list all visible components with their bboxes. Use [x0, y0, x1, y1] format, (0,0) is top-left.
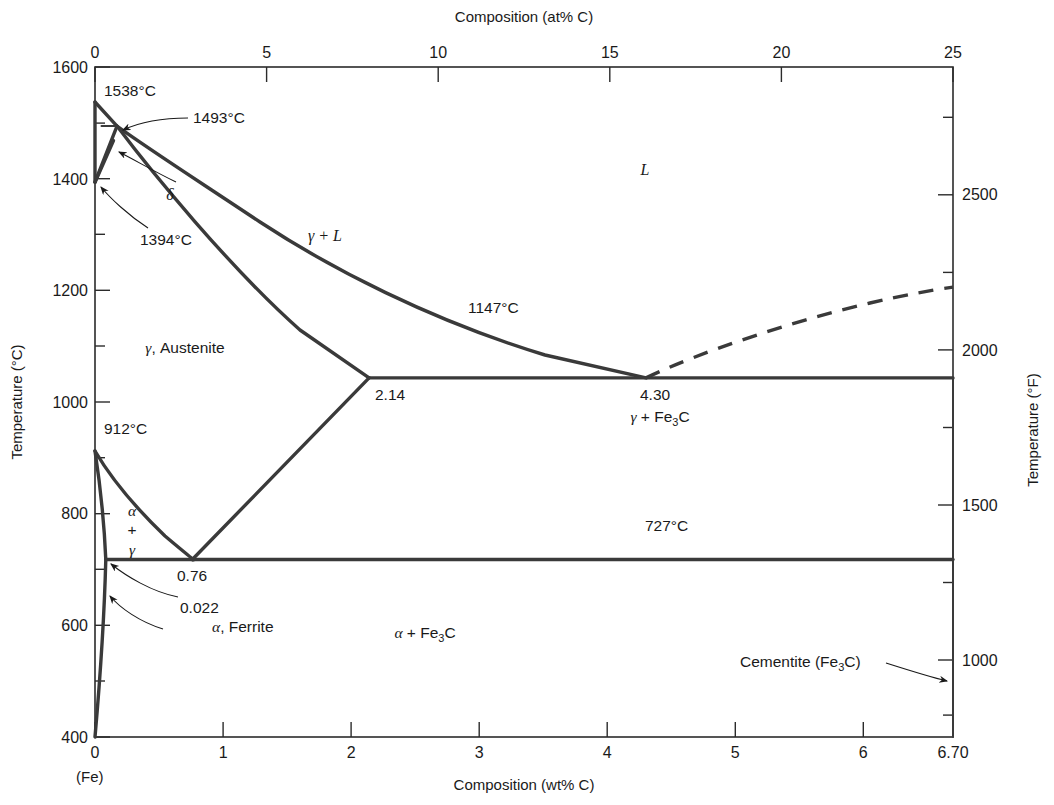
- bottom-tick-5: 5: [731, 744, 740, 761]
- cementite-head: Cementite (Fe: [740, 653, 838, 670]
- leader-delta: [119, 152, 176, 182]
- phase-label-alpha-plus-gamma: α + γ: [127, 502, 136, 558]
- origin-fe-label: (Fe): [76, 768, 104, 785]
- top-tick-10: 10: [429, 44, 447, 61]
- gamma-fe3c-tail: C: [678, 408, 689, 425]
- label-composition-2-14: 2.14: [375, 386, 406, 403]
- delta-gamma-solvus: [95, 141, 114, 183]
- plot-frame: [95, 67, 953, 737]
- top-tick-15: 15: [601, 44, 619, 61]
- phase-label-gamma-plus-cementite: γ + Fe3C: [630, 408, 689, 428]
- a3-austenite-ferrite-boundary: [95, 451, 193, 560]
- svg-text:γ: γ: [129, 541, 136, 558]
- label-composition-0-76: 0.76: [177, 567, 207, 584]
- alpha-gamma-plus: +: [127, 521, 136, 538]
- label-composition-4-30: 4.30: [640, 386, 671, 403]
- phase-label-liquid: L: [640, 161, 650, 178]
- left-axis-tick-labels: 1600 1400 1200 1000 800 600 400: [52, 59, 88, 746]
- phase-label-gamma-plus-liquid: γ + L: [308, 227, 342, 245]
- svg-text:α: α: [128, 502, 137, 519]
- label-1394c: 1394°C: [140, 231, 192, 248]
- alpha-solvus-boundary: [95, 451, 106, 737]
- leader-1394: [101, 187, 148, 228]
- bottom-tick-2: 2: [347, 744, 356, 761]
- bottom-axis-ticks: [95, 722, 953, 737]
- alpha-fe3c-tail: C: [444, 624, 455, 641]
- right-tick-2500: 2500: [962, 186, 998, 203]
- label-composition-0-022: 0.022: [180, 599, 219, 616]
- right-tick-1500: 1500: [962, 497, 998, 514]
- top-tick-5: 5: [262, 44, 271, 61]
- top-axis-tick-labels: 0 5 10 15 20 25: [91, 44, 962, 61]
- leader-cementite: [886, 663, 947, 681]
- iron-carbon-phase-diagram: 0 5 10 15 20 25 Composition (at% C) 0 1 …: [0, 0, 1054, 805]
- leader-1493: [123, 118, 188, 130]
- alpha-fe3c-head: + Fe: [403, 624, 439, 641]
- left-tick-600: 600: [61, 617, 88, 634]
- left-axis-title: Temperature (°C): [8, 344, 25, 459]
- right-tick-2000: 2000: [962, 342, 998, 359]
- left-tick-1200: 1200: [52, 282, 88, 299]
- cementite-tail: C): [844, 653, 860, 670]
- right-axis-title: Temperature (°F): [1024, 373, 1041, 487]
- right-axis-ticks: [938, 117, 953, 715]
- acm-boundary: [192, 378, 369, 560]
- leader-alpha-ferrite: [110, 596, 163, 629]
- bottom-tick-6.70: 6.70: [937, 744, 968, 761]
- label-1538c: 1538°C: [104, 82, 156, 99]
- phase-label-alpha-plus-cementite: α + Fe3C: [394, 624, 455, 644]
- top-tick-0: 0: [91, 44, 100, 61]
- label-727c: 727°C: [645, 517, 688, 534]
- bottom-tick-0: 0: [91, 744, 100, 761]
- top-tick-25: 25: [944, 44, 962, 61]
- top-axis-ticks: [95, 67, 953, 82]
- austenite-text: , Austenite: [151, 339, 224, 356]
- left-tick-1000: 1000: [52, 394, 88, 411]
- bottom-tick-4: 4: [603, 744, 612, 761]
- phase-label-delta: δ: [166, 186, 174, 203]
- left-tick-1600: 1600: [52, 59, 88, 76]
- bottom-tick-3: 3: [475, 744, 484, 761]
- top-tick-20: 20: [773, 44, 791, 61]
- alpha-glyph: α: [128, 502, 137, 519]
- bottom-axis-tick-labels: 0 1 2 3 4 5 6 6.70: [91, 744, 969, 761]
- left-tick-800: 800: [61, 505, 88, 522]
- gamma-fe3c-head: + Fe: [637, 408, 673, 425]
- ferrite-text: , Ferrite: [220, 618, 273, 635]
- bottom-tick-6: 6: [859, 744, 868, 761]
- gamma-glyph-3: γ: [129, 541, 136, 558]
- left-tick-1400: 1400: [52, 171, 88, 188]
- top-axis-title: Composition (at% C): [455, 8, 593, 25]
- phase-label-gamma-austenite: γ, Austenite: [145, 339, 224, 356]
- leader-0022: [111, 564, 178, 597]
- phase-label-alpha-ferrite: α, Ferrite: [212, 618, 274, 635]
- bottom-axis-title: Composition (wt% C): [454, 776, 595, 793]
- cementite-liquidus-dashed: [646, 287, 953, 378]
- left-tick-400: 400: [61, 729, 88, 746]
- right-tick-1000: 1000: [962, 652, 998, 669]
- phase-label-cementite: Cementite (Fe3C): [740, 653, 861, 673]
- right-axis-tick-labels: 2500 2000 1500 1000: [962, 186, 998, 669]
- bottom-tick-1: 1: [219, 744, 228, 761]
- label-1493c: 1493°C: [193, 109, 245, 126]
- label-912c: 912°C: [104, 420, 147, 437]
- label-1147c: 1147°C: [468, 299, 519, 316]
- phase-diagram-figure: 0 5 10 15 20 25 Composition (at% C) 0 1 …: [0, 0, 1054, 805]
